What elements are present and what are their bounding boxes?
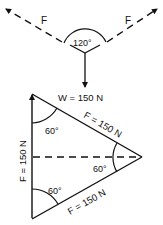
bottom-side-label: F = 150 N bbox=[66, 186, 108, 216]
angle-label-top-left: 60° bbox=[45, 126, 59, 136]
left-side-label: F = 150 N bbox=[17, 140, 28, 182]
weight-label: W = 150 N bbox=[58, 92, 103, 103]
angle-label-bottom-left: 60° bbox=[48, 186, 62, 196]
space-diagram: F F 120° W = 150 N bbox=[6, 9, 157, 103]
left-force-label: F bbox=[41, 15, 47, 26]
angle-label-right: 60° bbox=[93, 164, 107, 174]
right-force-label: F bbox=[125, 15, 131, 26]
right-force-line bbox=[107, 9, 157, 42]
angle-label-120: 120° bbox=[73, 38, 92, 48]
force-triangle: 60° 60° 60° F = 150 N F = 150 N F = 150 … bbox=[17, 94, 142, 219]
angle-arc-top-left bbox=[32, 108, 57, 123]
force-diagram: F F 120° W = 150 N 60° 60° 60° F = 150 N… bbox=[0, 0, 163, 225]
left-force-line bbox=[6, 9, 62, 42]
angle-arc-right bbox=[113, 143, 117, 172]
